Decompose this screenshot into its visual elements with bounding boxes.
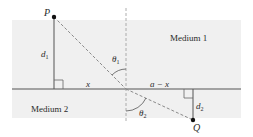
label-x: x [85,79,90,89]
label-medium-2: Medium 2 [31,104,68,114]
label-a-minus-x: a − x [150,79,169,89]
refraction-diagram: P Q Medium 1 Medium 2 d1 d2 x a − x θ1 θ… [0,0,253,137]
label-medium-1: Medium 1 [170,33,207,43]
label-q: Q [193,122,201,133]
label-p: P [43,7,50,18]
point-p [52,15,56,19]
